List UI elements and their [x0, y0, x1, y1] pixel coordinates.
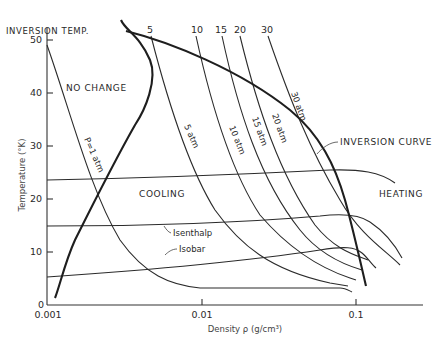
pressure-label: 30 — [261, 24, 273, 35]
pressure-label: 15 — [215, 24, 227, 35]
pressure-label: 10 — [191, 24, 203, 35]
y-axis-title: Temperature (°K) — [17, 138, 27, 212]
p1-label: P=1 atm — [82, 136, 106, 174]
isobar-leader — [165, 249, 177, 255]
y-tick-label: 20 — [30, 193, 42, 204]
x-axis-title: Density ρ (g/cm³) — [208, 324, 282, 334]
y-tick-label: 30 — [30, 140, 42, 151]
isenthalp-middle — [47, 215, 402, 258]
isobar-20atm — [240, 36, 368, 260]
inversion-curve — [126, 31, 366, 286]
isenthalp-label: Isenthalp — [173, 228, 212, 238]
p30-label: 30 atm — [289, 90, 309, 122]
heating-label: HEATING — [379, 189, 423, 199]
isenthalp-lower — [47, 248, 376, 277]
chart: 50 40 30 20 10 0 0.001 0.01 0.1 Density … — [0, 0, 447, 345]
inversion-temp-label: INVERSION TEMP. — [6, 26, 89, 36]
p10-label: 10 atm — [227, 124, 248, 156]
inversion-curve-label: INVERSION CURVE — [340, 137, 432, 147]
isobar-10atm — [196, 36, 356, 280]
isobar-30atm — [268, 36, 400, 265]
x-tick-label: 0.001 — [34, 309, 61, 320]
isenthalps — [47, 170, 402, 277]
pressure-label: 20 — [234, 24, 246, 35]
y-tick-label: 40 — [30, 87, 42, 98]
p15-label: 15 atm — [250, 115, 270, 147]
isobar-label: Isobar — [179, 244, 206, 254]
no-change-label: NO CHANGE — [66, 83, 127, 93]
pressure-label: 5 — [147, 24, 153, 35]
cooling-label: COOLING — [139, 189, 185, 199]
x-tick-label: 0.01 — [191, 309, 212, 320]
inversion-temp-curve — [55, 20, 152, 298]
y-tick-label: 10 — [30, 246, 42, 257]
x-tick-label: 0.1 — [348, 309, 363, 320]
isenthalp-leader — [164, 226, 171, 233]
p20-label: 20 atm — [270, 112, 290, 144]
